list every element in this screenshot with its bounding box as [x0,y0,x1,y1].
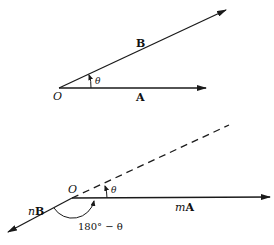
vector-a-label: A [135,91,145,104]
bottom-figure: O θ mA nB 180° − θ [8,125,270,232]
vector-ma-arrow [72,197,270,198]
vector-nb-label: nB [28,205,44,218]
vector-ma-scalar: m [175,201,185,214]
angle-theta-label: θ [111,185,117,195]
origin-label: O [53,90,62,103]
vector-nb-vector: B [35,205,44,218]
vector-b-label: B [136,37,145,50]
angle-theta-arc [89,75,91,88]
angle-theta-arc [105,186,107,198]
supplementary-angle-arc [54,201,94,218]
origin-label: O [68,183,77,196]
vector-ma-label: mA [175,201,194,214]
dashed-extension-line [72,125,229,198]
vector-nb-scalar: n [28,205,35,218]
vector-diagram: O B A θ O θ mA nB 180° − θ [0,0,274,245]
supplementary-angle-label: 180° − θ [78,221,123,232]
top-figure: O B A θ [53,10,226,104]
vector-ma-vector: A [184,201,194,214]
angle-theta-label: θ [95,76,101,86]
